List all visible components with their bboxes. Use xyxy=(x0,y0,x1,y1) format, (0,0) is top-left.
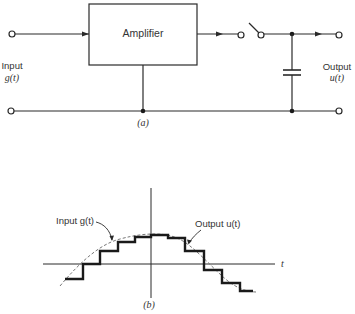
output-label: Output xyxy=(323,61,352,72)
caption-b: (b) xyxy=(143,299,155,311)
output-signal-label: u(t) xyxy=(330,72,345,84)
input-signal-label: g(t) xyxy=(5,72,20,84)
output-arrow-icon xyxy=(315,32,322,37)
output-terminal-top xyxy=(336,32,342,38)
caption-a: (a) xyxy=(137,117,149,129)
time-axis-label: t xyxy=(281,258,284,269)
junction-dot-bottom xyxy=(290,109,295,114)
input-arrow-icon xyxy=(82,32,89,37)
input-terminal-bottom xyxy=(8,108,14,114)
switch-terminal-right xyxy=(258,32,264,38)
amplifier-output-arrow-icon xyxy=(216,32,223,37)
sample-and-hold-figure: Amplifier Input g(t) Output u(t) (a) xyxy=(0,0,355,314)
output-terminal-bottom xyxy=(336,108,342,114)
circuit-diagram: Amplifier Input g(t) Output u(t) (a) xyxy=(1,4,351,129)
output-curve-label: Output u(t) xyxy=(195,218,240,229)
switch-terminal-left xyxy=(238,32,244,38)
input-terminal-top xyxy=(9,31,15,37)
input-curve-label: Input g(t) xyxy=(56,215,94,226)
amplifier-label: Amplifier xyxy=(123,27,164,39)
input-label: Input xyxy=(1,60,22,71)
input-leader-line xyxy=(96,222,112,240)
output-staircase xyxy=(65,235,253,291)
input-leader-arrow-icon xyxy=(110,236,115,242)
switch-blade xyxy=(249,23,259,33)
junction-dot-amp xyxy=(141,109,146,114)
waveform-plot: t Input g(t) Output u(t) (b) xyxy=(43,188,284,311)
